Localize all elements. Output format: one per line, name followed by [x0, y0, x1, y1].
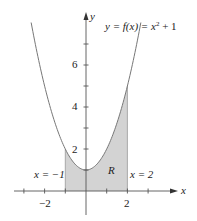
x-axis-label: x	[180, 184, 186, 196]
right-bound-label: x = 2	[129, 168, 154, 180]
y-axis-arrow-icon	[84, 12, 89, 20]
y-axis-label: y	[89, 10, 95, 22]
y-tick-label-4: 4	[72, 100, 78, 112]
left-bound-label: x = −1	[33, 168, 65, 180]
y-tick-label-2: 2	[72, 143, 78, 155]
x-tick-label-2: 2	[124, 197, 130, 209]
function-label: y = f(x) = x2 + 1	[104, 20, 177, 33]
y-tick-label-6: 6	[72, 58, 78, 70]
area-under-curve-diagram: y x y = f(x) = x2 + 1 R x = −1 x = 2 −2 …	[0, 0, 197, 221]
region-label: R	[107, 164, 115, 176]
x-axis-arrow-icon	[170, 189, 178, 194]
plot-svg: y x y = f(x) = x2 + 1 R x = −1 x = 2 −2 …	[0, 0, 197, 221]
x-tick-label-neg2: −2	[39, 197, 51, 209]
